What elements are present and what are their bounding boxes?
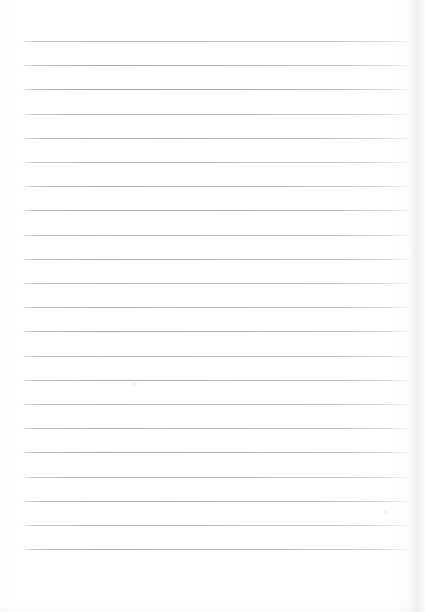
notebook-page — [0, 0, 425, 612]
writing-area[interactable] — [0, 0, 425, 612]
